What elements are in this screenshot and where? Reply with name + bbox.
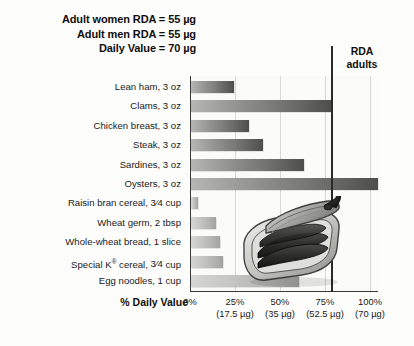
x-tick-label-group: 0%25%(17.5 µg)50%(35 µg)75%(52.5 µg)100%… bbox=[0, 296, 414, 336]
rda-caption-line2: adults bbox=[332, 58, 392, 71]
bar-row bbox=[191, 178, 378, 190]
bar bbox=[191, 217, 216, 229]
category-label: Oysters, 3 oz bbox=[0, 178, 181, 190]
bar bbox=[191, 236, 220, 248]
category-label: Chicken breast, 3 oz bbox=[0, 120, 181, 132]
category-label: Raisin bran cereal, 3⁄4 cup bbox=[0, 197, 181, 209]
bar-row bbox=[191, 159, 304, 171]
bar-row bbox=[191, 139, 263, 151]
category-label: Steak, 3 oz bbox=[0, 139, 181, 151]
rda-reference-line bbox=[331, 46, 332, 292]
rda-marker-caption: RDA adults bbox=[332, 45, 392, 70]
bar-row bbox=[191, 197, 198, 209]
category-label: Clams, 3 oz bbox=[0, 100, 181, 112]
bar bbox=[191, 139, 263, 151]
bar-row bbox=[191, 256, 223, 268]
bar bbox=[191, 197, 198, 209]
bar-row bbox=[191, 275, 299, 287]
bar-row bbox=[191, 120, 249, 132]
category-label: Lean ham, 3 oz bbox=[0, 81, 181, 93]
note-line-dv: Daily Value = 70 µg bbox=[0, 41, 196, 56]
x-tick-micrograms: (70 µg) bbox=[338, 308, 402, 320]
category-label: Special K® cereal, 3⁄4 cup bbox=[0, 256, 181, 271]
bar bbox=[191, 81, 234, 93]
bar bbox=[191, 159, 304, 171]
note-line-men: Adult men RDA = 55 µg bbox=[0, 27, 196, 42]
bar bbox=[191, 256, 223, 268]
selenium-chart-figure: Adult women RDA = 55 µg Adult men RDA = … bbox=[0, 0, 414, 346]
bar bbox=[191, 275, 299, 287]
category-label: Egg noodles, 1 cup bbox=[0, 275, 181, 287]
bar bbox=[191, 178, 378, 190]
bar bbox=[191, 100, 331, 112]
x-tick-label: 100%(70 µg) bbox=[338, 296, 402, 319]
bar-row bbox=[191, 217, 216, 229]
rda-caption-line1: RDA bbox=[332, 45, 392, 58]
bar-row bbox=[191, 100, 331, 112]
note-line-women: Adult women RDA = 55 µg bbox=[0, 12, 196, 27]
bar-row bbox=[191, 81, 234, 93]
bar-row bbox=[191, 236, 220, 248]
x-tick-percent: 100% bbox=[338, 296, 402, 308]
bar-group bbox=[190, 76, 378, 292]
plot-area bbox=[190, 76, 378, 292]
category-label: Sardines, 3 oz bbox=[0, 159, 181, 171]
bar bbox=[191, 120, 249, 132]
category-label: Wheat germ, 2 tbsp bbox=[0, 217, 181, 229]
category-label: Whole-wheat bread, 1 slice bbox=[0, 236, 181, 248]
rda-summary-note: Adult women RDA = 55 µg Adult men RDA = … bbox=[0, 12, 196, 56]
